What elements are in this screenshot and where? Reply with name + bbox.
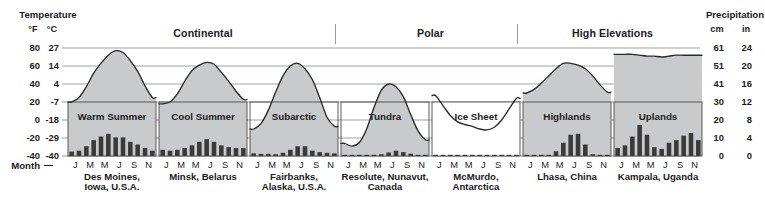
precipitation-bar	[386, 152, 391, 156]
month-tick-label: M	[283, 160, 291, 170]
precipitation-bar	[423, 155, 428, 156]
right-axis-unit-in: in	[742, 24, 751, 34]
precip-tick-cm: 0	[719, 150, 724, 161]
month-tick-label: M	[541, 160, 549, 170]
precipitation-bar	[667, 143, 672, 156]
month-tick-label: J	[390, 160, 395, 170]
section-header: Polar	[417, 27, 444, 39]
month-tick-label: M	[359, 160, 367, 170]
precipitation-bar	[598, 155, 603, 156]
precipitation-bar	[583, 144, 588, 156]
month-tick-label: S	[677, 160, 683, 170]
month-tick-label: J	[346, 160, 351, 170]
precipitation-bar	[288, 150, 293, 156]
month-tick-label: M	[268, 160, 276, 170]
zone-label: Highlands	[543, 111, 591, 122]
precipitation-bar	[303, 146, 308, 156]
region-label: Alaska, U.S.A.	[262, 181, 327, 192]
precipitation-bar	[539, 155, 544, 156]
temp-tick-c: 4	[54, 78, 60, 89]
precipitation-bar	[357, 155, 362, 156]
month-tick-label: J	[255, 160, 260, 170]
month-tick-label: M	[374, 160, 382, 170]
precipitation-bar	[106, 134, 111, 156]
month-tick-label: J	[663, 160, 668, 170]
city-label: Minsk, Belarus	[169, 171, 237, 182]
precipitation-bar	[492, 155, 497, 156]
precipitation-bar	[310, 151, 315, 156]
region-label: Canada	[368, 181, 403, 192]
precipitation-bar	[546, 155, 551, 156]
precip-tick-in: 20	[742, 60, 752, 71]
temp-tick-f: 80	[30, 42, 40, 53]
precipitation-bar	[623, 145, 628, 156]
temp-tick-c: 14	[49, 60, 60, 71]
precipitation-bar	[590, 154, 595, 156]
zone-label: Cool Summer	[171, 111, 235, 122]
precipitation-bar	[463, 155, 468, 156]
precipitation-bar	[433, 155, 438, 156]
month-row-label-text: Month	[11, 160, 40, 171]
temp-tick-f: -20	[26, 132, 40, 143]
precipitation-bar	[532, 155, 537, 156]
month-tick-label: J	[299, 160, 304, 170]
precipitation-bar	[234, 148, 239, 156]
precipitation-bar	[251, 153, 256, 156]
precipitation-bar	[168, 151, 173, 156]
precipitation-bar	[561, 143, 566, 156]
month-tick-label: S	[313, 160, 319, 170]
month-tick-label: N	[418, 160, 425, 170]
precipitation-bar	[317, 152, 322, 156]
right-axis-title-text: Precipitation	[706, 9, 764, 20]
month-tick-label: S	[222, 160, 228, 170]
precipitation-bar	[499, 155, 504, 156]
city-label: Lhasa, China	[537, 171, 597, 182]
precipitation-bar	[568, 135, 573, 156]
precipitation-bar	[226, 147, 231, 156]
climate-graph-figure: Temperature°F°C806040200-20-4027144-7-18…	[0, 0, 765, 208]
precipitation-bar	[674, 140, 679, 156]
precip-tick-in: 8	[747, 114, 752, 125]
section-header: Continental	[173, 27, 232, 39]
precipitation-bar	[470, 155, 475, 156]
precipitation-bar	[266, 154, 271, 156]
precipitation-bar	[281, 153, 286, 156]
month-tick-label: N	[600, 160, 607, 170]
precipitation-bar	[212, 142, 217, 156]
climograph-panel: Uplands	[614, 54, 702, 156]
month-tick-label: J	[208, 160, 213, 170]
precipitation-bar	[190, 145, 195, 156]
month-tick-label: N	[327, 160, 334, 170]
precipitation-bar	[295, 146, 300, 156]
month-tick-label: N	[145, 160, 152, 170]
climograph-panel: Ice Sheet	[432, 95, 520, 156]
month-tick-label: J	[117, 160, 122, 170]
precipitation-bar	[416, 155, 421, 156]
month-tick-label: J	[528, 160, 533, 170]
precipitation-bar	[143, 148, 148, 156]
precip-tick-cm: 30	[714, 96, 724, 107]
month-tick-label: M	[101, 160, 109, 170]
precipitation-bar	[514, 155, 519, 156]
temp-tick-c: -29	[45, 132, 59, 143]
precipitation-bar	[605, 155, 610, 156]
month-tick-label: M	[450, 160, 458, 170]
precipitation-bar	[69, 152, 74, 156]
precipitation-bar	[630, 137, 635, 156]
precipitation-bar	[485, 155, 490, 156]
precipitation-bar	[615, 148, 620, 156]
zone-label: Ice Sheet	[454, 111, 498, 122]
temp-tick-f: 40	[30, 78, 40, 89]
precip-tick-in: 4	[747, 132, 753, 143]
precip-tick-cm: 10	[714, 132, 724, 143]
zone-label: Warm Summer	[78, 111, 147, 122]
temp-tick-c: -7	[51, 96, 59, 107]
month-tick-label: S	[404, 160, 410, 170]
precipitation-bar	[350, 155, 355, 156]
precipitation-bar	[696, 140, 701, 156]
section-header: High Elevations	[572, 27, 653, 39]
month-tick-label: S	[586, 160, 592, 170]
precipitation-bar	[364, 155, 369, 156]
precipitation-bar	[121, 137, 126, 156]
month-tick-label: J	[437, 160, 442, 170]
